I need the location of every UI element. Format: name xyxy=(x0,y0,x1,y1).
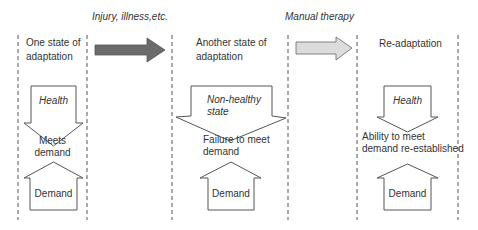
outcome-label: Failure to meet xyxy=(203,134,270,146)
stage-title: One state of xyxy=(26,37,80,49)
demand-up-arrow-icon xyxy=(377,164,438,210)
demand-label: Demand xyxy=(30,188,77,200)
stage-title: Re-adaptation xyxy=(379,38,442,50)
stage-title: adaptation xyxy=(26,51,73,63)
demand-label: Demand xyxy=(208,188,254,200)
stage-title: adaptation xyxy=(196,51,243,63)
outcome-label: demand xyxy=(203,146,239,158)
transition-label-injury: Injury, illness,etc. xyxy=(92,11,168,23)
demand-up-arrow-icon xyxy=(24,162,83,210)
adaptation-diagram: Injury, illness,etc. Manual therapy One … xyxy=(0,0,478,230)
state-label: state xyxy=(207,106,229,118)
state-label: Health xyxy=(31,95,76,107)
therapy-arrow-icon xyxy=(296,37,352,60)
outcome-label: demand re-established xyxy=(362,143,464,155)
injury-arrow-icon xyxy=(95,38,165,62)
state-label: Health xyxy=(384,95,431,107)
demand-up-arrow-icon xyxy=(200,162,261,210)
outcome-label: Ability to meet xyxy=(362,131,425,143)
health-down-arrow-icon xyxy=(377,86,438,132)
state-label: Non-healthy xyxy=(207,94,261,106)
outcome-label: demand xyxy=(18,147,87,159)
demand-label: Demand xyxy=(384,188,431,200)
outcome-label: Meets xyxy=(18,135,87,147)
transition-label-therapy: Manual therapy xyxy=(285,11,354,23)
stage-title: Another state of xyxy=(196,37,267,49)
